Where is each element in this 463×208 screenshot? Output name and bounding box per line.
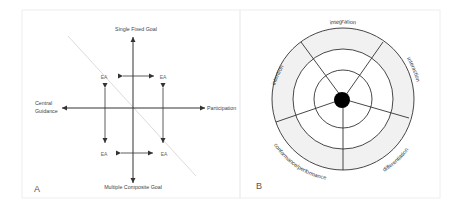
panel-a-label: A [34,184,40,194]
axis-label-left-line1: Central [35,100,52,106]
segment-label-integration: integration [329,18,356,25]
panel-b: integration interaction intention confor… [256,18,421,191]
figure: EA EA EA EA Single Fixed Goal Multiple C… [0,0,463,208]
quadrant-label-top-right: EA [160,74,167,80]
quadrant-label-bottom-right: EA [161,151,168,157]
axis-label-left-line2: Guidance [35,108,58,114]
quadrant-label-top-left: EA [101,74,108,80]
quadrant-label-bottom-left: EA [101,151,108,157]
panel-a-frame [22,10,240,198]
axis-label-right: Participation [207,105,236,111]
panel-a: EA EA EA EA Single Fixed Goal Multiple C… [34,26,236,194]
axis-label-top: Single Fixed Goal [115,26,157,32]
diagonal-line [68,36,196,176]
axis-label-bottom: Multiple Composite Goal [104,184,162,190]
diagram-canvas: EA EA EA EA Single Fixed Goal Multiple C… [0,0,463,208]
panel-b-label: B [256,181,262,191]
center-dot [334,92,350,108]
